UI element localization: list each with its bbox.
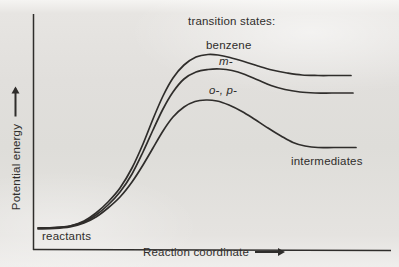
intermediates-label: intermediates xyxy=(291,156,363,167)
right-arrow-icon xyxy=(255,251,283,253)
reactants-label: reactants xyxy=(42,231,91,242)
curve-meta xyxy=(38,69,353,228)
energy-diagram-figure: transition states: benzene m- o-, p- int… xyxy=(0,0,399,267)
x-axis-label-text: Reaction coordinate xyxy=(143,246,249,258)
transition-states-heading: transition states: xyxy=(188,16,275,27)
curve-benzene xyxy=(38,54,351,228)
y-axis-label-text: Potential energy xyxy=(9,124,21,210)
plot-canvas xyxy=(0,0,399,267)
up-arrow-icon xyxy=(14,89,16,117)
x-axis-label: Reaction coordinate xyxy=(143,246,283,258)
benzene-curve-label: benzene xyxy=(206,40,252,51)
y-axis-label: Potential energy xyxy=(8,75,23,225)
ortho-para-curve-label: o-, p- xyxy=(209,85,237,96)
meta-curve-label: m- xyxy=(219,56,233,67)
